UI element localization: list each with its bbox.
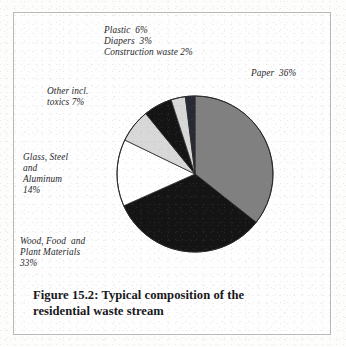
figure-page: Plastic 6% Diapers 3% Construction waste… — [0, 0, 346, 347]
label-wood-food-plant-line1: Wood, Food and — [20, 236, 85, 247]
label-wood-food-plant-line2: Plant Materials — [20, 247, 80, 258]
label-other-incl-toxics-line1: Other incl. — [47, 86, 88, 97]
label-paper: Paper 36% — [251, 68, 296, 79]
label-glass-steel-aluminum-line3: Aluminum — [23, 174, 62, 185]
label-glass-steel-aluminum-line1: Glass, Steel — [23, 152, 68, 163]
figure-caption: Figure 15.2: Typical composition of the … — [33, 288, 305, 319]
label-other-incl-toxics-line2: toxics 7% — [47, 97, 84, 108]
label-glass-steel-aluminum-line2: and — [23, 163, 37, 174]
label-plastic: Plastic 6% — [104, 25, 148, 36]
label-diapers: Diapers 3% — [104, 36, 152, 47]
figure-caption-line1: Figure 15.2: Typical composition of the — [33, 288, 305, 304]
label-construction-waste: Construction waste 2% — [104, 47, 193, 58]
label-wood-food-plant-line3: 33% — [20, 258, 37, 269]
figure-caption-line2: residential waste stream — [33, 304, 305, 320]
label-glass-steel-aluminum-line4: 14% — [23, 185, 40, 196]
